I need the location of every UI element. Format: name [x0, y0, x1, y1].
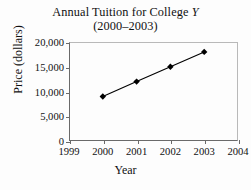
x-tick-labels: 199920002001200220032004 [0, 0, 251, 190]
chart-figure: Annual Tuition for College Y (2000–2003)… [0, 0, 251, 190]
x-tick-label: 2004 [218, 146, 251, 157]
